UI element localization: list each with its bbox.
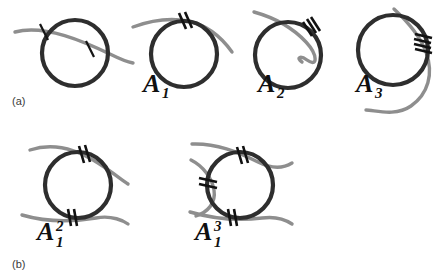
figure-tangency-A1: A 1: [133, 12, 232, 101]
figure-tangency-A2: A 2: [254, 12, 321, 101]
symbol-base: A: [35, 217, 54, 246]
symbol-subscript: 1: [56, 234, 64, 250]
symbol-subscript: 1: [214, 234, 222, 250]
symbol-superscript: 2: [55, 218, 64, 234]
panel-label-a: (a): [12, 95, 25, 107]
symbol-A2: A 2: [256, 69, 285, 101]
strand-curve: [15, 30, 133, 63]
figure-tangency-A3: A 3: [354, 9, 432, 112]
symbol-subscript: 2: [276, 85, 285, 101]
symbol-superscript: 3: [213, 218, 222, 234]
symbol-subscript: 1: [162, 85, 170, 101]
symbol-base: A: [193, 217, 212, 246]
figure-root: A 1 A 2 A 3 (a): [0, 0, 448, 280]
strand-curve: [254, 12, 315, 62]
panel-label-b: (b): [12, 258, 25, 270]
symbol-base: A: [141, 69, 160, 98]
symbol-A1-squared: A 2 1: [35, 217, 64, 250]
figure-tangency-A1-squared: A 2 1: [22, 145, 128, 250]
tick-group-triple: [303, 17, 320, 36]
loop-circle: [207, 152, 273, 218]
symbol-A3: A 3: [354, 69, 383, 101]
symbol-subscript: 3: [374, 85, 383, 101]
tangency-diagram-svg: A 1 A 2 A 3 (a): [0, 0, 448, 280]
symbol-base: A: [354, 69, 373, 98]
symbol-A1-cubed: A 3 1: [193, 217, 222, 250]
loop-circle: [42, 20, 108, 86]
loop-circle: [151, 21, 217, 87]
symbol-base: A: [256, 69, 275, 98]
symbol-A1: A 1: [141, 69, 170, 101]
figure-transverse-crossing: [15, 20, 133, 86]
figure-tangency-A1-cubed: A 3 1: [190, 144, 292, 250]
loop-circle: [45, 152, 111, 218]
